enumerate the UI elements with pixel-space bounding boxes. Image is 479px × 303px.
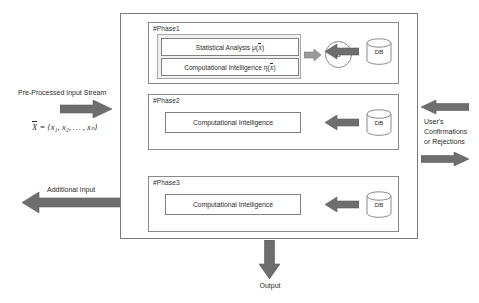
db-2[interactable]: DB [366,109,392,136]
phase-3-label: #Phase3 [153,179,180,186]
db-1-label: DB [366,48,392,55]
statistical-analysis-box[interactable]: Statistical Analysis μ(X) [161,38,299,56]
statistical-analysis-variable: X [258,44,262,51]
phase-1-label: #Phase1 [153,25,180,32]
input-stream-arrow [60,100,112,118]
user-feedback-line-3: or Rejections [424,137,467,147]
computational-intelligence-label-1: Computational Intelligence η( [184,64,269,71]
user-feedback-line-1: User's [424,117,467,127]
phase-2-container: #Phase2 Computational Intelligence [148,94,399,150]
input-formula-body: = {x₁, x₂, … , xₙ} [37,122,97,132]
db-3-arrow [325,197,359,212]
phase-1-to-node-arrow [304,49,321,61]
input-formula-variable: X [32,122,37,132]
db-1-arrow [325,44,359,59]
user-feedback-in-arrow [421,100,469,114]
statistical-analysis-label: Statistical Analysis μ( [196,44,258,51]
phase-3-container: #Phase3 Computational Intelligence [148,176,399,232]
computational-intelligence-label-2: Computational Intelligence [193,119,273,126]
diagram-canvas: Pre-Processed Input Stream X = {x₁, x₂, … [0,0,479,303]
phase-1-container: #Phase1 Statistical Analysis μ(X) Comput… [148,22,399,84]
phase-2-label: #Phase2 [153,97,180,104]
db-3[interactable]: DB [366,191,392,218]
user-feedback-out-arrow [421,152,469,166]
user-feedback-line-2: Confirmations [424,127,467,137]
computational-intelligence-box-2[interactable]: Computational Intelligence [165,112,301,133]
statistical-analysis-label-tail: ) [262,44,264,51]
computational-intelligence-box-3[interactable]: Computational Intelligence [165,194,301,215]
output-arrow [259,240,280,279]
db-2-label: DB [366,119,392,126]
output-label: Output [244,281,296,291]
computational-intelligence-label-3: Computational Intelligence [193,201,273,208]
computational-intelligence-variable-1: X [270,64,274,71]
db-1[interactable]: DB [366,38,392,65]
input-formula: X = {x₁, x₂, … , xₙ} [32,122,97,132]
db-2-arrow [325,115,359,130]
input-stream-label: Pre-Processed Input Stream [18,88,106,98]
db-3-label: DB [366,201,392,208]
computational-intelligence-box-1[interactable]: Computational Intelligence η(X) [161,58,299,76]
phase-1-module-group: Statistical Analysis μ(X) Computational … [157,34,301,79]
user-feedback-label: User's Confirmations or Rejections [424,117,467,147]
